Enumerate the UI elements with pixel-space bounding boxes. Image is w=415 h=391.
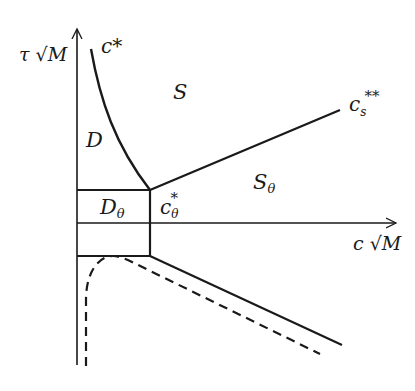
lower-boundary-line	[150, 256, 342, 345]
y-axis-label: τ √M	[19, 43, 68, 65]
x-axis-label: c √M	[353, 232, 402, 254]
c-s-double-star-line	[150, 110, 340, 190]
region-S-theta-label: Sθ	[253, 170, 275, 196]
region-D-theta-label: Dθ	[99, 195, 125, 221]
c-theta-star-label: cθ*	[160, 189, 179, 221]
c-s-double-star-label: cs**	[349, 87, 380, 119]
dashed-boundary-curve	[86, 256, 320, 366]
region-S-label: S	[173, 80, 187, 104]
c-star-label: c*	[101, 34, 122, 58]
c-star-curve	[91, 49, 150, 190]
phase-diagram: τ √M c √M c* cs** cθ* D S Dθ Sθ	[0, 0, 415, 391]
region-D-label: D	[85, 128, 103, 152]
